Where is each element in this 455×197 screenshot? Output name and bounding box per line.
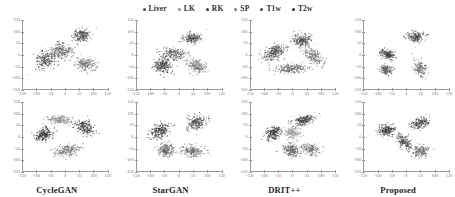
x-tick-label: 150 — [332, 174, 339, 178]
cluster-liver — [376, 122, 399, 140]
x-tick-label: -150 — [132, 92, 140, 96]
legend-marker-icon — [178, 8, 181, 11]
scatter-points — [363, 20, 449, 90]
y-tick-label: 0 — [359, 53, 361, 57]
panel-title: StarGAN — [114, 185, 228, 195]
x-tick-label: 150 — [104, 174, 111, 178]
cluster-lk — [50, 41, 78, 61]
x-tick-label: 150 — [446, 92, 453, 96]
scatter-points — [22, 20, 108, 90]
x-tick-label: 100 — [318, 174, 325, 178]
x-tick-label: -100 — [146, 92, 154, 96]
panel-stargan-row2: 150100500-50-100-150-150-100-50050100150… — [114, 98, 228, 197]
x-tick-label: 50 — [77, 92, 81, 96]
x-tick-label: 50 — [418, 174, 422, 178]
scatter-points — [136, 102, 222, 172]
legend: LiverLKRKSPT1wT2w — [0, 2, 455, 16]
x-tick-label: 150 — [446, 174, 453, 178]
y-tick-label: 50 — [357, 41, 361, 45]
x-tick-label: 100 — [90, 92, 97, 96]
x-tick-label: 100 — [431, 174, 438, 178]
y-tick-label: -100 — [239, 158, 247, 162]
y-tick-label: 100 — [127, 111, 134, 115]
legend-label: Liver — [149, 5, 167, 12]
x-tick-label: 150 — [218, 174, 225, 178]
legend-marker-icon — [260, 8, 263, 11]
legend-label: T2w — [298, 5, 313, 12]
panel-dritpp-row2: 150100500-50-100-150-150-100-50050100150… — [228, 98, 342, 197]
cluster-sp — [412, 53, 431, 80]
cluster-liver — [257, 42, 290, 66]
cluster-lk — [42, 114, 76, 125]
y-tick-label: -100 — [126, 158, 134, 162]
x-tick-label: 50 — [304, 174, 308, 178]
y-tick-label: 150 — [127, 100, 134, 104]
x-tick-label: 50 — [191, 92, 195, 96]
x-tick-label: -50 — [161, 174, 167, 178]
y-tick-label: 50 — [16, 123, 20, 127]
x-tick-label: 0 — [291, 174, 293, 178]
plot-area: 150100500-50-100-150-150-100-50050100150 — [22, 20, 108, 90]
cluster-liver — [31, 123, 57, 143]
legend-marker-icon — [292, 8, 295, 11]
x-tick-label: 150 — [332, 92, 339, 96]
panel-title: CycleGAN — [0, 185, 114, 195]
legend-marker-icon — [206, 8, 209, 11]
x-tick-label: -50 — [275, 92, 281, 96]
legend-label: T1w — [266, 5, 281, 12]
scatter-points — [250, 102, 336, 172]
panel-cyclegan-row1: 150100500-50-100-150-150-100-50050100150 — [0, 16, 114, 98]
x-tick-label: 50 — [418, 92, 422, 96]
cluster-lk — [377, 63, 396, 77]
y-tick-label: -100 — [126, 76, 134, 80]
y-tick-label: 100 — [355, 111, 362, 115]
x-tick-label: -100 — [260, 92, 268, 96]
panel-proposed-row1: 150100500-50-100-150-150-100-50050100150 — [341, 16, 455, 98]
x-tick-label: 0 — [178, 174, 180, 178]
x-tick-label: -50 — [389, 174, 395, 178]
x-tick-label: 150 — [104, 92, 111, 96]
x-tick-label: -150 — [245, 174, 253, 178]
cluster-rk — [403, 28, 429, 47]
plot-area: 150100500-50-100-150-150-100-50050100150 — [136, 102, 222, 172]
legend-item-sp: SP — [234, 5, 249, 12]
y-tick-label: 150 — [127, 18, 134, 22]
x-tick-label: 50 — [77, 174, 81, 178]
panel-title: DRIT++ — [228, 185, 342, 195]
x-tick-label: 150 — [218, 92, 225, 96]
y-tick-label: -50 — [128, 146, 134, 150]
x-tick-label: -100 — [32, 174, 40, 178]
x-tick-label: -50 — [161, 92, 167, 96]
scatter-points — [136, 20, 222, 90]
panel-proposed-row2: 150100500-50-100-150-150-100-50050100150… — [341, 98, 455, 197]
legend-label: LK — [184, 5, 195, 12]
y-tick-label: 100 — [127, 29, 134, 33]
y-tick-label: -50 — [355, 64, 361, 68]
y-tick-label: 0 — [132, 53, 134, 57]
y-tick-label: 150 — [13, 100, 20, 104]
y-tick-label: 100 — [355, 29, 362, 33]
legend-item-rk: RK — [206, 5, 224, 12]
panel-grid: 150100500-50-100-150-150-100-50050100150… — [0, 16, 455, 197]
y-tick-label: -50 — [14, 64, 20, 68]
x-tick-label: 0 — [178, 92, 180, 96]
x-tick-label: 100 — [204, 174, 211, 178]
y-tick-label: 50 — [129, 41, 133, 45]
x-tick-label: -100 — [32, 92, 40, 96]
x-tick-label: 0 — [64, 174, 66, 178]
x-tick-label: 0 — [291, 92, 293, 96]
legend-item-liver: Liver — [143, 5, 167, 12]
plot-area: 150100500-50-100-150-150-100-50050100150 — [250, 102, 336, 172]
panel-stargan-row1: 150100500-50-100-150-150-100-50050100150 — [114, 16, 228, 98]
y-tick-label: -100 — [239, 76, 247, 80]
y-tick-label: -100 — [12, 158, 20, 162]
y-tick-label: 150 — [355, 100, 362, 104]
y-tick-label: 150 — [355, 18, 362, 22]
x-tick-label: 100 — [431, 92, 438, 96]
y-tick-label: -100 — [353, 76, 361, 80]
x-tick-label: -150 — [18, 174, 26, 178]
x-tick-label: 0 — [405, 92, 407, 96]
x-tick-label: -150 — [359, 92, 367, 96]
legend-item-t1w: T1w — [260, 5, 281, 12]
y-tick-label: 100 — [13, 29, 20, 33]
